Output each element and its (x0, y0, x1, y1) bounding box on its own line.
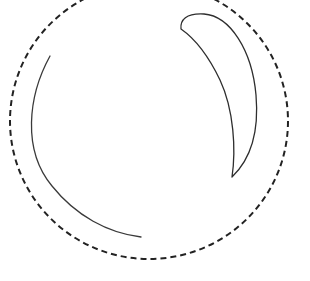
background (0, 0, 310, 281)
diagram-canvas (0, 0, 310, 281)
